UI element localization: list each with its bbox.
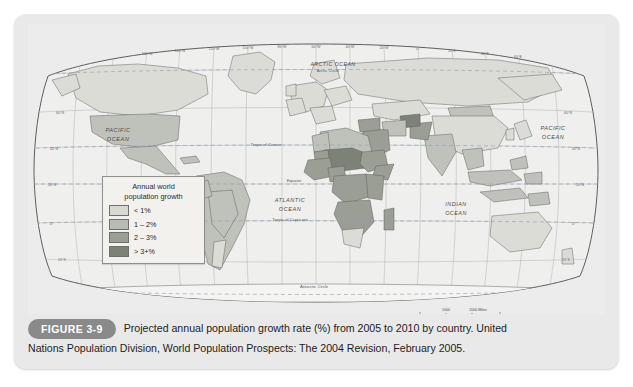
legend-label-1to2: 1 – 2% bbox=[134, 220, 156, 229]
legend-label-gt3: > 3+% bbox=[134, 247, 155, 256]
map-svg: 160°W 140°W 120°W 100°W 80°W 60°W 40°W 2… bbox=[28, 24, 605, 314]
svg-text:60°W: 60°W bbox=[312, 45, 321, 49]
svg-text:Equator: Equator bbox=[287, 178, 302, 183]
legend-swatch-gt3 bbox=[109, 246, 129, 257]
svg-text:140°W: 140°W bbox=[175, 49, 186, 53]
legend-swatch-1to2 bbox=[109, 219, 129, 230]
svg-text:Tropic of Capricorn: Tropic of Capricorn bbox=[272, 217, 308, 222]
svg-text:20°S: 20°S bbox=[562, 258, 570, 262]
svg-text:OCEAN: OCEAN bbox=[279, 206, 302, 212]
figure-caption: FIGURE 3-9Projected annual population gr… bbox=[28, 319, 605, 357]
svg-text:100°W: 100°W bbox=[243, 46, 254, 50]
svg-text:PACIFIC: PACIFIC bbox=[105, 127, 131, 133]
svg-text:20°E: 20°E bbox=[448, 49, 456, 53]
svg-text:Arctic Circle: Arctic Circle bbox=[317, 68, 340, 73]
legend-item-1to2: 1 – 2% bbox=[109, 219, 199, 230]
world-map: 160°W 140°W 120°W 100°W 80°W 60°W 40°W 2… bbox=[28, 24, 605, 314]
svg-text:160°W: 160°W bbox=[142, 52, 153, 56]
svg-text:120°W: 120°W bbox=[209, 47, 220, 51]
svg-text:2000 Miles: 2000 Miles bbox=[469, 308, 487, 312]
svg-text:20°N: 20°N bbox=[576, 183, 584, 187]
svg-text:40°N: 40°N bbox=[50, 147, 58, 151]
scale-bar: 1000 2000 Miles 0 1000 2000 3000 Kilomet… bbox=[416, 306, 508, 314]
svg-text:0°: 0° bbox=[572, 222, 576, 226]
legend-item-gt3: > 3+% bbox=[109, 246, 199, 257]
figure-panel: 160°W 140°W 120°W 100°W 80°W 60°W 40°W 2… bbox=[14, 14, 619, 369]
svg-text:40°W: 40°W bbox=[346, 45, 355, 49]
svg-text:1000: 1000 bbox=[442, 308, 450, 312]
legend-label-lt1: < 1% bbox=[134, 206, 151, 215]
svg-text:Tropic of Cancer: Tropic of Cancer bbox=[251, 142, 282, 147]
svg-text:OCEAN: OCEAN bbox=[542, 134, 565, 140]
svg-text:OCEAN: OCEAN bbox=[107, 136, 130, 142]
svg-text:80°W: 80°W bbox=[278, 45, 287, 49]
svg-text:20°W: 20°W bbox=[380, 46, 389, 50]
svg-text:ARCTIC OCEAN: ARCTIC OCEAN bbox=[309, 61, 355, 67]
legend-item-lt1: < 1% bbox=[109, 205, 199, 216]
svg-text:Antarctic Circle: Antarctic Circle bbox=[300, 284, 329, 289]
svg-text:60°E: 60°E bbox=[514, 55, 522, 59]
legend-item-2to3: 2 – 3% bbox=[109, 232, 199, 243]
svg-text:60°N: 60°N bbox=[564, 111, 572, 115]
svg-text:ATLANTIC: ATLANTIC bbox=[274, 197, 306, 203]
svg-text:40°E: 40°E bbox=[481, 52, 489, 56]
legend-swatch-lt1 bbox=[109, 205, 129, 216]
caption-line-2: Nations Population Division, World Popul… bbox=[28, 341, 605, 357]
figure-number-badge: FIGURE 3-9 bbox=[28, 319, 116, 339]
legend-title: Annual world population growth bbox=[108, 182, 199, 201]
svg-text:0°: 0° bbox=[416, 47, 420, 51]
caption-line-1: Projected annual population growth rate … bbox=[124, 322, 507, 334]
svg-text:60°N: 60°N bbox=[56, 111, 64, 115]
svg-text:INDIAN: INDIAN bbox=[445, 201, 466, 207]
legend-title-line2: population growth bbox=[124, 192, 182, 201]
scale-bar-miles: 1000 2000 Miles bbox=[442, 308, 487, 312]
svg-text:20°S: 20°S bbox=[58, 258, 66, 262]
svg-text:0°: 0° bbox=[50, 222, 54, 226]
svg-text:20°N: 20°N bbox=[48, 183, 56, 187]
legend-swatch-2to3 bbox=[109, 232, 129, 243]
map-legend: Annual world population growth < 1% 1 – … bbox=[102, 176, 205, 264]
svg-text:PACIFIC: PACIFIC bbox=[540, 125, 566, 131]
svg-text:40°N: 40°N bbox=[572, 147, 580, 151]
legend-title-line1: Annual world bbox=[132, 182, 175, 191]
svg-text:OCEAN: OCEAN bbox=[445, 210, 467, 216]
legend-label-2to3: 2 – 3% bbox=[134, 233, 156, 242]
